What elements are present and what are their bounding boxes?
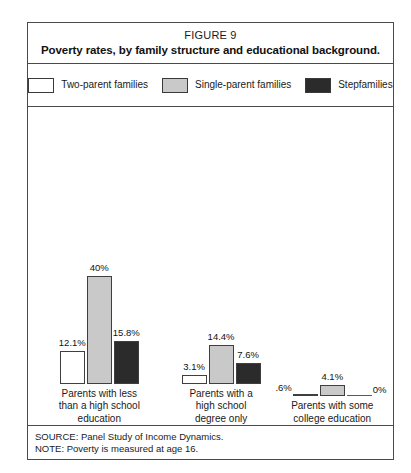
bar-stepfamilies xyxy=(236,363,261,383)
footer-note: NOTE: Poverty is measured at age 16. xyxy=(35,443,386,455)
category-label-line: than a high school xyxy=(59,400,140,413)
bar-value-label: 3.1% xyxy=(183,361,205,372)
legend-item-single-parent: Single-parent families xyxy=(162,78,291,93)
footer-source: SOURCE: Panel Study of Income Dynamics. xyxy=(35,431,386,443)
category-label-line: Parents with less xyxy=(59,388,140,401)
legend-label-stepfamilies: Stepfamilies xyxy=(338,79,392,91)
bar-two-parent xyxy=(293,394,318,396)
bar-two-parent xyxy=(182,375,207,383)
figure-number: FIGURE 9 xyxy=(34,28,387,42)
bar-value-label: 4.1% xyxy=(321,371,343,382)
legend-item-two-parent: Two-parent families xyxy=(28,78,148,93)
bar-group-bars: .6% 4.1% 0% xyxy=(293,128,372,396)
figure-frame: FIGURE 9 Poverty rates, by family struct… xyxy=(27,22,394,460)
category-label-less-than-high-school: Parents with less than a high school edu… xyxy=(59,384,140,426)
category-label-line: education xyxy=(59,413,140,426)
category-label-line: high school xyxy=(189,400,252,413)
legend-swatch-two-parent xyxy=(28,78,54,93)
figure-title-band: FIGURE 9 Poverty rates, by family struct… xyxy=(28,23,393,64)
bar-group-bars: 12.1% 40% 15.8% xyxy=(60,116,139,384)
category-label-line: college education xyxy=(291,413,373,426)
bar-slot-stepfamilies: 0% xyxy=(347,128,372,396)
legend-swatch-single-parent xyxy=(162,78,188,93)
legend-label-two-parent: Two-parent families xyxy=(61,79,148,91)
bar-group-less-than-high-school: 12.1% 40% 15.8% Parents with xyxy=(34,107,165,425)
figure-footer: SOURCE: Panel Study of Income Dynamics. … xyxy=(28,425,393,459)
bar-value-label: .6% xyxy=(275,382,291,393)
bar-group-bars: 3.1% 14.4% 7.6% xyxy=(182,116,261,384)
bar-value-label: 40% xyxy=(90,262,109,273)
page-title: Poverty rates, by family structure and e… xyxy=(34,43,387,58)
category-label-some-college: Parents with some college education xyxy=(291,396,373,425)
bar-group-some-college: .6% 4.1% 0% Parents with som xyxy=(278,107,387,425)
bar-slot-two-parent: 12.1% xyxy=(60,116,85,384)
chart-plot-area: 12.1% 40% 15.8% Parents with xyxy=(28,107,393,425)
category-label-high-school-degree: Parents with a high school degree only xyxy=(189,384,252,426)
bar-slot-two-parent: .6% xyxy=(293,128,318,396)
bar-value-label: 7.6% xyxy=(237,349,259,360)
category-label-line: Parents with some xyxy=(291,400,373,413)
bar-slot-stepfamilies: 7.6% xyxy=(236,116,261,384)
bar-slot-single-parent: 14.4% xyxy=(209,116,234,384)
bar-slot-single-parent: 40% xyxy=(87,116,112,384)
bar-single-parent xyxy=(320,385,345,396)
bar-value-label: 14.4% xyxy=(208,331,235,342)
bar-stepfamilies xyxy=(347,395,372,396)
bar-slot-two-parent: 3.1% xyxy=(182,116,207,384)
bar-group-high-school-degree: 3.1% 14.4% 7.6% Parents with xyxy=(165,107,278,425)
bar-slot-stepfamilies: 15.8% xyxy=(114,116,139,384)
bar-value-label: 15.8% xyxy=(113,327,140,338)
bar-single-parent xyxy=(87,276,112,383)
bar-value-label: 0% xyxy=(373,384,387,395)
legend-item-stepfamilies: Stepfamilies xyxy=(305,78,392,93)
category-label-line: degree only xyxy=(189,413,252,426)
bar-slot-single-parent: 4.1% xyxy=(320,128,345,396)
bar-single-parent xyxy=(209,345,234,384)
bar-two-parent xyxy=(60,351,85,383)
legend-label-single-parent: Single-parent families xyxy=(195,79,291,91)
legend-swatch-stepfamilies xyxy=(305,78,331,93)
chart-legend: Two-parent families Single-parent famili… xyxy=(28,64,393,107)
bar-stepfamilies xyxy=(114,341,139,383)
bar-value-label: 12.1% xyxy=(59,337,86,348)
category-label-line: Parents with a xyxy=(189,388,252,401)
bar-groups: 12.1% 40% 15.8% Parents with xyxy=(34,107,387,425)
